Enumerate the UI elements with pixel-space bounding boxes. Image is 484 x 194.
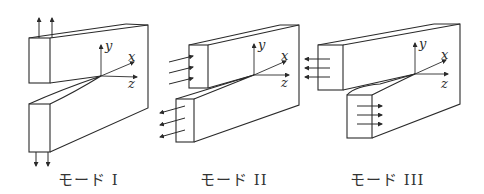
mode-3-label: モード III — [350, 168, 425, 189]
mode-1-diagram: y x z — [29, 18, 148, 166]
mode-3-lower-front — [347, 95, 372, 138]
mode-1-upper-front — [29, 38, 50, 83]
mode-1-axis-z-label: z — [127, 76, 135, 91]
mode-2-lower-front — [176, 99, 194, 142]
mode-3-axis-x-label: x — [441, 47, 449, 62]
mode-1-axes: y x z — [101, 38, 137, 91]
mode-2-axes: y x z — [254, 37, 289, 90]
mode-2-axis-z-label: z — [280, 75, 288, 90]
fracture-modes-diagram: y x z y x z — [0, 0, 484, 194]
mode-3-axes: y x z — [415, 36, 449, 91]
mode-2-upper-front — [189, 45, 208, 88]
mode-1-upper-top — [29, 24, 148, 38]
mode-2-axis-x-label: x — [281, 48, 289, 63]
mode-1-lower-front — [29, 104, 50, 152]
mode-3-diagram: y x z — [305, 24, 460, 138]
mode-1-axis-y-label: y — [104, 38, 113, 53]
mode-3-axis-y-label: y — [418, 36, 427, 51]
mode-2-axis-y-label: y — [257, 37, 266, 52]
mode-2-label: モード II — [200, 168, 268, 189]
mode-1-arrows-down-icon — [36, 152, 48, 166]
mode-3-axis-z-label: z — [440, 76, 448, 91]
mode-1-axis-x-label: x — [128, 49, 136, 64]
mode-1-label: モード I — [58, 168, 119, 189]
mode-2-diagram: y x z — [160, 25, 299, 142]
